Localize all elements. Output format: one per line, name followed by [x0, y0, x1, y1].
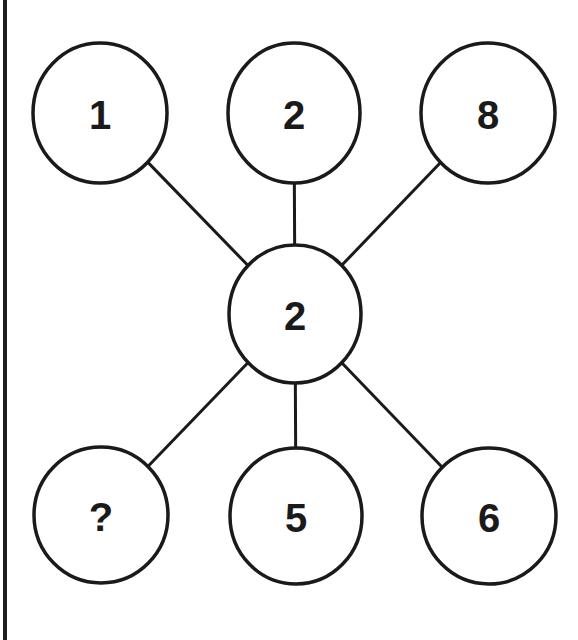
node-label-top-middle: 2: [234, 85, 354, 145]
node-label-bottom-middle: 5: [236, 488, 356, 548]
node-label-bottom-left-missing: ?: [41, 487, 161, 547]
center-node-label: 2: [235, 286, 355, 346]
connector-line-bottom-right: [342, 363, 442, 468]
node-label-bottom-right: 6: [429, 488, 549, 548]
node-label-top-right: 8: [428, 85, 548, 145]
connector-line-top-right: [342, 162, 441, 265]
connector-line-top-left: [148, 162, 248, 265]
node-label-top-left: 1: [40, 85, 160, 145]
connector-line-bottom-left: [148, 363, 248, 467]
